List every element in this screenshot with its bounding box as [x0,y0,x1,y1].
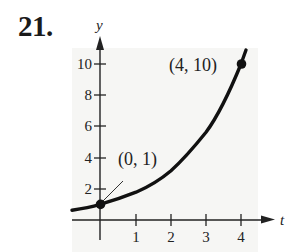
x-tick-label: 1 [132,229,140,245]
x-tick-label: 4 [237,229,245,245]
x-axis-arrow-icon [261,216,275,224]
y-axis-label: y [94,17,103,33]
y-tick-label: 2 [85,181,93,197]
x-axis-label: t [280,212,285,228]
x-tick-label: 2 [167,229,175,245]
y-tick-label: 8 [85,87,93,103]
point-4-10 [237,59,247,69]
y-tick-label: 4 [85,150,93,166]
y-axis-arrow-icon [96,36,104,50]
y-tick-label: 6 [85,118,93,134]
y-tick-label: 10 [77,56,92,72]
point-label-4-10: (4, 10) [169,55,217,76]
point-0-1 [96,200,106,210]
exponential-chart: y t 10 8 6 4 2 1 2 3 4 (0, 1) (4, 10) [0,0,306,252]
point-label-0-1: (0, 1) [118,149,157,170]
x-tick-label: 3 [202,229,210,245]
